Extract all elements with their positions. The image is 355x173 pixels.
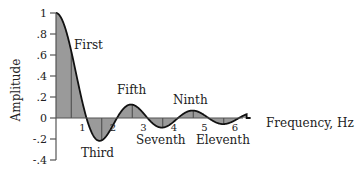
y-tick-label: -.4 [33, 154, 47, 167]
x-tick-label: 5 [201, 122, 207, 133]
annotation-first: First [74, 38, 103, 52]
x-tick-label: 1 [79, 122, 85, 133]
annotation-eleventh: Eleventh [196, 133, 250, 147]
annotation-third: Third [81, 146, 114, 160]
y-tick-label: .4 [37, 70, 48, 83]
x-tick-label: 3 [140, 122, 146, 133]
annotation-fifth: Fifth [117, 83, 146, 97]
annotation-ninth: Ninth [173, 93, 208, 107]
y-tick-label: 0 [40, 112, 47, 125]
y-tick-label: .8 [37, 28, 48, 41]
x-tick-label: 4 [171, 122, 177, 133]
y-tick-label: .6 [37, 49, 48, 62]
y-tick-label: -.2 [33, 133, 47, 146]
y-axis-label: Amplitude [9, 59, 23, 123]
y-tick-label: 1 [40, 7, 47, 20]
x-tick-label: 2 [110, 122, 116, 133]
annotation-seventh: Seventh [136, 133, 186, 147]
sinc-amplitude-chart: 1.8.6.4.20-.2-.4 123456 Amplitude Freque… [0, 0, 355, 173]
y-tick-label: .2 [37, 91, 48, 104]
x-tick-label: 6 [232, 122, 238, 133]
y-axis-ticks: 1.8.6.4.20-.2-.4 [33, 7, 56, 167]
x-axis-label: Frequency, Hz [266, 116, 354, 130]
